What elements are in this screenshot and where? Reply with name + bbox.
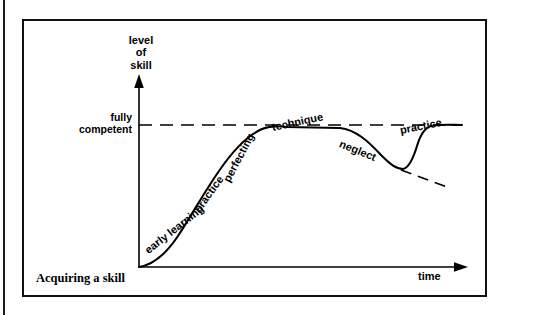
figure-page: level of skill time fully competent earl… (0, 0, 535, 315)
figure-caption: Acquiring a skill (36, 271, 125, 285)
y-axis-arrowhead (134, 74, 144, 88)
y-axis (134, 74, 144, 267)
x-axis-arrowhead (454, 262, 468, 272)
fully-competent-label: fully competent (60, 112, 132, 136)
y-axis-label: level of skill (118, 34, 164, 71)
neglect-projection-dashed-path (401, 170, 447, 187)
x-axis-label: time (418, 270, 441, 282)
skill-curve-path (139, 125, 462, 267)
skill-curve-chart (0, 0, 535, 315)
